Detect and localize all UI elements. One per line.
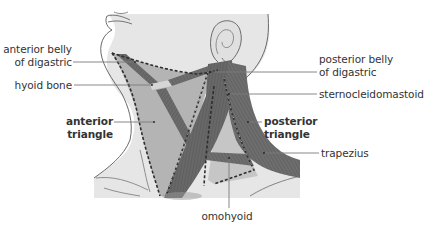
label-sternocleidomastoid: sternocleidomastoid: [319, 88, 424, 101]
label-line: posterior belly: [319, 53, 393, 66]
label-line: of digastric: [3, 56, 72, 69]
label-posterior-triangle: posterior triangle: [264, 115, 317, 140]
label-hyoid-bone: hyoid bone: [15, 79, 72, 92]
label-line: anterior: [66, 115, 113, 128]
label-line: of digastric: [319, 66, 393, 79]
label-trapezius: trapezius: [321, 147, 369, 160]
label-line: hyoid bone: [15, 79, 72, 92]
label-line: sternocleidomastoid: [319, 88, 424, 101]
label-anterior-triangle: anterior triangle: [66, 115, 113, 140]
label-line: anterior belly: [3, 43, 72, 56]
label-line: triangle: [66, 128, 113, 141]
label-anterior-belly-of-digastric: anterior belly of digastric: [3, 43, 72, 68]
label-line: posterior: [264, 115, 317, 128]
clavicle-shadow: [162, 192, 202, 200]
label-line: trapezius: [321, 147, 369, 160]
label-line: omohyoid: [201, 210, 252, 223]
label-posterior-belly-of-digastric: posterior belly of digastric: [319, 53, 393, 78]
label-omohyoid: omohyoid: [201, 210, 252, 223]
label-line: triangle: [264, 128, 317, 141]
